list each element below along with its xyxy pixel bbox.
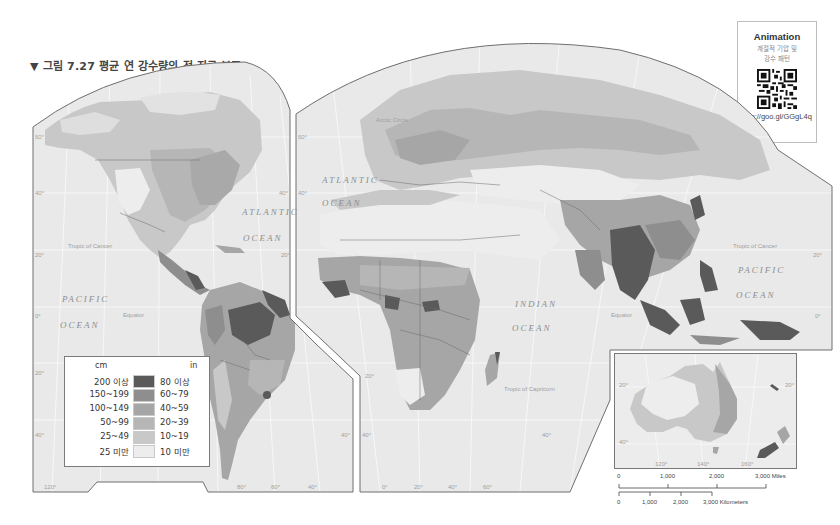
legend-swatch — [133, 389, 155, 402]
arctic-circle-label: Arctic Circle — [376, 117, 408, 123]
lat-label: 0° — [815, 313, 821, 319]
lat-label: 40° — [341, 432, 350, 438]
lon-label: 40° — [308, 484, 317, 490]
ocean-label-pacific-west: PACIFIC — [738, 265, 785, 275]
legend-swatch — [133, 417, 155, 430]
legend-cm-value: 200 이상 — [94, 375, 129, 387]
legend-cm-value: 25 미만 — [99, 445, 129, 457]
ocean-label-pacific-west-2: OCEAN — [736, 290, 776, 300]
inset-lon-label: 140° — [697, 461, 709, 467]
legend-swatch — [133, 431, 155, 444]
scale-bar: 0 1,000 2,000 3,000 Miles 0 1,000 2,000 … — [614, 468, 814, 518]
lat-label: 40° — [298, 190, 307, 196]
australia-inset-map: 20° 20° 40° 120° 140° 160° — [614, 353, 797, 469]
scale-miles-0: 0 — [617, 473, 620, 479]
legend-row: 100~149 40~59 — [65, 403, 211, 417]
ocean-label-pacific-east-2: OCEAN — [60, 320, 100, 330]
tropic-capricorn-label: Tropic of Capricorn — [504, 386, 555, 392]
scale-miles-3000: 3,000 Miles — [755, 473, 786, 479]
lat-label: 20° — [365, 373, 374, 379]
scale-km-2000: 2,000 — [673, 499, 688, 505]
lat-label: 40° — [542, 432, 551, 438]
ocean-label-atlantic-west: ATLANTIC — [242, 207, 299, 217]
ocean-label-atlantic-west-2: OCEAN — [243, 233, 283, 243]
australia-inset-graphic — [615, 354, 797, 469]
ocean-label-atlantic-east-2: OCEAN — [322, 198, 362, 208]
equator-label-west: Equator — [123, 312, 144, 318]
legend-cm-value: 25~49 — [100, 431, 129, 441]
legend-swatch — [133, 375, 155, 388]
inset-lon-label: 120° — [655, 461, 667, 467]
precipitation-legend: cm in 200 이상 80 이상 150~199 60~79 100~149… — [64, 356, 210, 467]
legend-row: 25~49 10~19 — [65, 431, 211, 445]
scale-km-1000: 1,000 — [642, 499, 657, 505]
lat-label: 20° — [281, 252, 290, 258]
lat-label: 0° — [35, 313, 41, 319]
ocean-label-atlantic-east: ATLANTIC — [322, 175, 379, 185]
lon-label: 0° — [382, 484, 388, 490]
ocean-label-indian: INDIAN — [515, 299, 557, 309]
legend-row: 25 미만 10 미만 — [65, 445, 211, 459]
legend-row: 150~199 60~79 — [65, 389, 211, 403]
ocean-label-pacific-east: PACIFIC — [62, 294, 109, 304]
lon-label: 60° — [483, 484, 492, 490]
legend-row: 200 이상 80 이상 — [65, 375, 211, 389]
scale-km-0: 0 — [617, 499, 620, 505]
lat-label: 20° — [813, 252, 822, 258]
lat-label: 60° — [298, 134, 307, 140]
scale-km-3000: 3,000 Kilometers — [703, 499, 748, 505]
lon-label: 40° — [448, 484, 457, 490]
lon-label: 60° — [271, 484, 280, 490]
legend-in-value: 10 미만 — [160, 445, 190, 457]
scale-miles-2000: 2,000 — [709, 473, 724, 479]
legend-row: 50~99 20~39 — [65, 417, 211, 431]
legend-cm-value: 100~149 — [89, 403, 129, 413]
equator-label-east: Equator — [611, 312, 632, 318]
tropic-cancer-label-west: Tropic of Cancer — [68, 243, 112, 249]
legend-in-value: 80 이상 — [160, 375, 190, 387]
lon-label: 120° — [44, 484, 56, 490]
inset-lat-label: 20° — [619, 382, 628, 388]
legend-in-value: 20~39 — [160, 417, 189, 427]
inset-lat-label: 40° — [619, 439, 628, 445]
lat-label: 40° — [279, 190, 288, 196]
lat-label: 40° — [362, 432, 371, 438]
inset-lat-label: 20° — [785, 382, 794, 388]
legend-cm-value: 150~199 — [89, 389, 129, 399]
lat-label: 40° — [35, 190, 44, 196]
legend-in-value: 10~19 — [160, 431, 189, 441]
lon-label: 80° — [237, 484, 246, 490]
legend-cm-value: 50~99 — [100, 417, 129, 427]
lon-label: 20° — [414, 484, 423, 490]
tropic-cancer-label-east: Tropic of Cancer — [733, 243, 777, 249]
scale-miles-1000: 1,000 — [660, 473, 675, 479]
legend-swatch — [133, 403, 155, 416]
lat-label: 20° — [35, 370, 44, 376]
lat-label: 20° — [35, 252, 44, 258]
lat-label: 40° — [35, 432, 44, 438]
legend-swatch — [133, 445, 155, 458]
legend-unit-cm: cm — [95, 361, 107, 370]
lat-label: 60° — [35, 134, 44, 140]
inset-lon-label: 160° — [741, 461, 753, 467]
ocean-label-indian-2: OCEAN — [512, 323, 552, 333]
legend-in-value: 60~79 — [160, 389, 189, 399]
legend-unit-in: in — [190, 361, 197, 370]
legend-in-value: 40~59 — [160, 403, 189, 413]
